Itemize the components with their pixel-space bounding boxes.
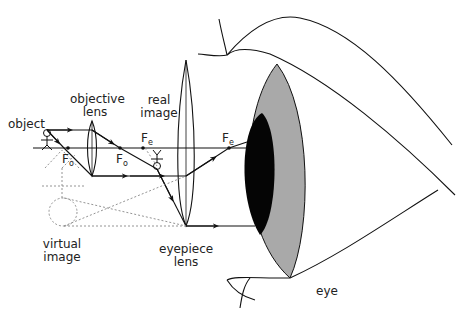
virtual-image-label: virtual image bbox=[42, 238, 82, 264]
eyepiece-lens-label-line2: lens bbox=[159, 256, 213, 269]
focal-label-objective-left: Fo bbox=[62, 152, 74, 168]
focal-label-eyepiece-right: Fe bbox=[222, 131, 234, 147]
virtual-image-label-line2: image bbox=[42, 251, 82, 264]
object-figure bbox=[41, 130, 53, 151]
focal-label-eyepiece-left: Fe bbox=[141, 131, 153, 147]
objective-lens-label: objective lens bbox=[70, 93, 120, 119]
eye-outline bbox=[198, 17, 455, 308]
real-image-label-line2: image bbox=[138, 107, 180, 120]
eye-label: eye bbox=[316, 285, 338, 298]
objective-lens-label-line2: lens bbox=[70, 106, 120, 119]
real-image-label: real image bbox=[138, 94, 180, 120]
eyepiece-lens-label: eyepiece lens bbox=[159, 243, 213, 269]
focal-label-objective-right: Fo bbox=[116, 152, 128, 168]
object-label: object bbox=[8, 118, 45, 131]
